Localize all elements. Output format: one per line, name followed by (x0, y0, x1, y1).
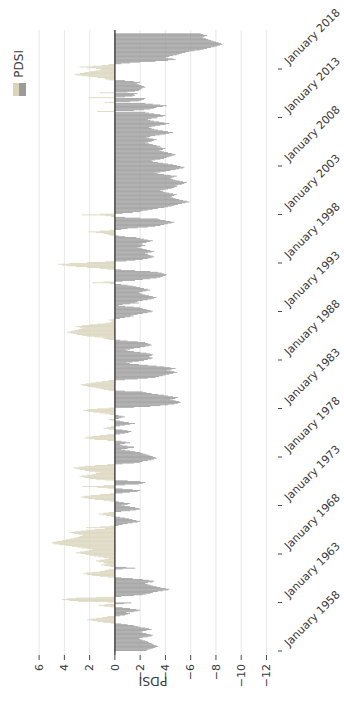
value-tick-label: −12 (260, 664, 273, 687)
y-axis-title: PDSI (139, 674, 168, 689)
value-tick-label: 0 (109, 664, 122, 671)
legend: PDSI (13, 50, 26, 96)
legend-swatch-icon (13, 83, 26, 96)
value-tick-label: 4 (58, 664, 71, 671)
plot-svg: 6420−2−4−6−8−10−12PDSIJanuary 1958Januar… (0, 0, 344, 706)
pdsi-bars (52, 33, 223, 651)
legend-label: PDSI (13, 50, 26, 78)
value-tick-label: 6 (33, 664, 46, 671)
date-axis: January 1958January 1963January 1968Janu… (278, 6, 343, 651)
value-tick-label: 2 (83, 664, 96, 671)
value-tick-label: −10 (235, 664, 248, 687)
pdsi-chart: 6420−2−4−6−8−10−12PDSIJanuary 1958Januar… (0, 0, 344, 706)
value-tick-label: −8 (210, 664, 223, 680)
rotated-pdsi-chart: 6420−2−4−6−8−10−12PDSIJanuary 1958Januar… (0, 0, 344, 706)
value-tick-label: −6 (184, 664, 197, 680)
